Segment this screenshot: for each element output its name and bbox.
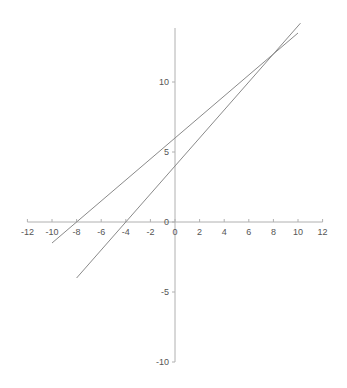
x-tick-label: 12 — [318, 227, 328, 237]
x-tick-label: -6 — [97, 227, 105, 237]
x-tick-label: 4 — [222, 227, 227, 237]
line-chart: -12-10-8-6-4-2024681012 -10-50510 — [0, 0, 347, 388]
series-lines — [52, 23, 300, 278]
x-tick-label: -2 — [146, 227, 154, 237]
x-tick-label: -8 — [73, 227, 81, 237]
y-tick-label: -5 — [161, 287, 169, 297]
x-tick-label: 6 — [246, 227, 251, 237]
x-tick-label: -10 — [45, 227, 58, 237]
x-tick-label: 2 — [197, 227, 202, 237]
series-line-2 — [77, 23, 301, 278]
axes — [27, 28, 322, 362]
y-tick-label: -10 — [156, 357, 169, 367]
x-tick-label: -12 — [21, 227, 34, 237]
x-tick-label: -4 — [122, 227, 130, 237]
x-tick-label: 10 — [293, 227, 303, 237]
y-tick-label: 0 — [164, 217, 169, 227]
x-tick-label: 0 — [172, 227, 177, 237]
x-tick-label: 8 — [271, 227, 276, 237]
y-tick-label: 5 — [164, 147, 169, 157]
y-tick-label: 10 — [159, 77, 169, 87]
